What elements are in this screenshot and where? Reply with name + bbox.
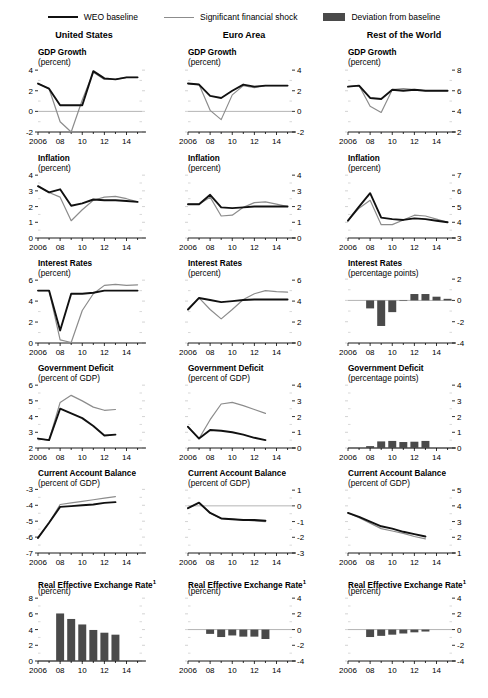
column-header-euro-area: Euro Area <box>164 30 324 40</box>
bar <box>388 441 396 448</box>
plot-area: 01234200608101214 <box>4 152 164 256</box>
x-tick-label: 12 <box>250 243 259 252</box>
y-tick-label: -4 <box>26 501 34 510</box>
plot-area: 01234200608101214 <box>324 362 484 466</box>
x-tick-label: 10 <box>388 348 397 357</box>
x-tick-label: 14 <box>432 243 441 252</box>
y-tick-label: -2 <box>297 128 305 137</box>
y-tick-label: 3 <box>29 428 34 437</box>
x-tick-label: 12 <box>410 243 419 252</box>
y-tick-label: -6 <box>26 533 34 542</box>
y-tick-label: -4 <box>457 339 465 348</box>
x-tick-label: 12 <box>100 558 109 567</box>
y-tick-label: 4 <box>29 66 34 75</box>
plot-area: -4-2024200608101214 <box>324 575 484 679</box>
legend-line-icon <box>164 17 194 18</box>
y-tick-label: 0 <box>457 296 462 305</box>
bar <box>89 630 97 661</box>
y-tick-label: 0 <box>29 657 34 666</box>
x-tick-label: 08 <box>366 666 375 675</box>
legend-item-weo-baseline: WEO baseline <box>48 13 138 22</box>
x-tick-label: 10 <box>228 666 237 675</box>
x-tick-label: 14 <box>272 348 281 357</box>
series-line-significant-financial-shock <box>188 291 288 319</box>
y-tick-label: 4 <box>297 381 302 390</box>
y-tick-label: -3 <box>26 485 34 494</box>
series-line-significant-financial-shock <box>188 402 265 438</box>
legend-label: Deviation from baseline <box>351 13 440 22</box>
x-tick-label: 14 <box>122 137 131 146</box>
panel-us-gdp-growth: GDP Growth(percent)-2024200608101214 <box>4 46 164 150</box>
y-tick-label: 6 <box>457 87 462 96</box>
y-tick-label: 4 <box>297 594 302 603</box>
y-tick-label: -2 <box>297 641 305 650</box>
x-tick-label: 12 <box>410 558 419 567</box>
x-tick-label: 10 <box>228 348 237 357</box>
series-line-weo-baseline <box>38 186 138 206</box>
x-tick-label: 08 <box>56 453 65 462</box>
x-tick-label: 14 <box>272 243 281 252</box>
figure-root: WEO baseline Significant financial shock… <box>0 0 488 698</box>
bar <box>410 442 418 448</box>
bar <box>250 630 258 637</box>
x-tick-label: 2006 <box>29 558 47 567</box>
series-line-weo-baseline <box>348 513 425 537</box>
bar <box>78 624 86 661</box>
y-tick-label: 3 <box>457 397 462 406</box>
y-tick-label: 2 <box>297 87 302 96</box>
plot-area: -4-202200608101214 <box>324 257 484 361</box>
panel-ea-interest-rates: Interest Rates(percent)0246200608101214 <box>164 257 324 361</box>
bar <box>444 299 452 301</box>
bar <box>366 630 374 637</box>
y-tick-label: 0 <box>297 234 302 243</box>
y-tick-label: 0 <box>457 626 462 635</box>
x-tick-label: 10 <box>78 666 87 675</box>
y-tick-label: 6 <box>29 610 34 619</box>
bar <box>377 300 385 326</box>
bar <box>366 446 374 448</box>
y-tick-label: 2 <box>297 318 302 327</box>
x-tick-label: 2006 <box>339 348 357 357</box>
bar <box>410 294 418 300</box>
bar <box>388 300 396 312</box>
x-tick-label: 10 <box>228 558 237 567</box>
x-tick-label: 12 <box>100 243 109 252</box>
series-line-weo-baseline <box>188 195 288 208</box>
x-tick-label: 08 <box>56 137 65 146</box>
x-tick-label: 2006 <box>179 453 197 462</box>
y-tick-label: 0 <box>297 339 302 348</box>
x-tick-label: 12 <box>410 348 419 357</box>
panel-us-government-deficit: Government Deficit(percent of GDP)234562… <box>4 362 164 466</box>
y-tick-label: -2 <box>26 128 34 137</box>
x-tick-label: 2006 <box>179 348 197 357</box>
bar <box>228 630 236 636</box>
y-tick-label: 2 <box>457 413 462 422</box>
x-tick-label: 14 <box>432 137 441 146</box>
x-tick-label: 10 <box>388 137 397 146</box>
panel-ea-current-account-balance: Current Account Balance(percent of GDP)-… <box>164 467 324 571</box>
y-tick-label: 3 <box>297 397 302 406</box>
y-tick-label: 2 <box>29 444 34 453</box>
y-tick-label: 0 <box>297 444 302 453</box>
x-tick-label: 14 <box>272 137 281 146</box>
x-tick-label: 12 <box>100 666 109 675</box>
x-tick-label: 08 <box>206 137 215 146</box>
plot-area: 12345200608101214 <box>324 467 484 571</box>
y-tick-label: 6 <box>29 381 34 390</box>
y-tick-label: 4 <box>457 218 462 227</box>
x-tick-label: 12 <box>100 348 109 357</box>
plot-area: 02468200608101214 <box>4 575 164 679</box>
bar <box>421 630 429 632</box>
x-tick-label: 14 <box>122 348 131 357</box>
plot-area: -4-2024200608101214 <box>164 575 324 679</box>
y-tick-label: -4 <box>297 657 305 666</box>
panel-us-interest-rates: Interest Rates(percent)0246200608101214 <box>4 257 164 361</box>
y-tick-label: 0 <box>297 626 302 635</box>
x-tick-label: 08 <box>56 666 65 675</box>
y-tick-label: 0 <box>297 107 302 116</box>
x-tick-label: 2006 <box>179 558 197 567</box>
y-tick-label: -4 <box>457 657 465 666</box>
y-tick-label: 4 <box>457 107 462 116</box>
bar <box>261 630 269 639</box>
plot-area: -3-2-101200608101214 <box>164 467 324 571</box>
